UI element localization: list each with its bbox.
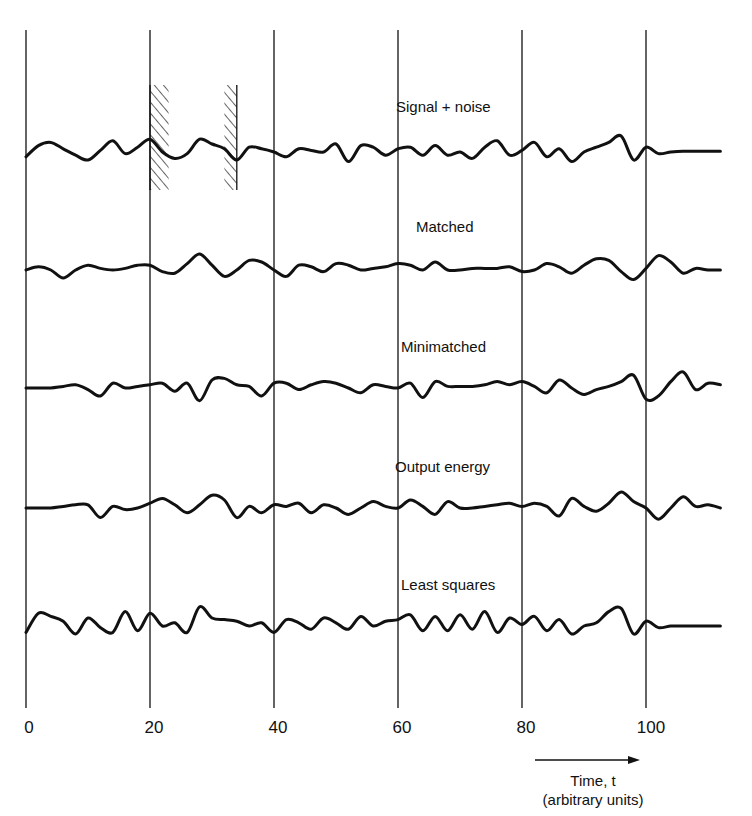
hatched-region-1 (150, 85, 169, 190)
vertical-gridlines (26, 30, 646, 708)
x-axis-units: (arbitrary units) (518, 790, 668, 809)
trace-label-least-squares: Least squares (401, 576, 495, 593)
x-axis-label: Time, t (518, 771, 668, 790)
x-tick-label-40: 40 (269, 718, 288, 738)
x-tick-label-80: 80 (517, 718, 536, 738)
trace-least-squares (26, 606, 720, 634)
x-tick-label-100: 100 (637, 718, 665, 738)
hatched-regions (150, 85, 237, 190)
trace-output-energy (26, 492, 720, 519)
trace-label-signal-noise: Signal + noise (396, 98, 491, 115)
x-axis-caption: Time, t (arbitrary units) (518, 771, 668, 809)
time-arrow (535, 756, 640, 764)
hatched-region-2 (224, 85, 236, 190)
trace-label-output-energy: Output energy (395, 458, 490, 475)
x-tick-label-20: 20 (145, 718, 164, 738)
x-tick-label-0: 0 (24, 718, 33, 738)
trace-label-matched: Matched (416, 218, 474, 235)
trace-matched (26, 254, 720, 280)
signal-traces (26, 135, 720, 634)
trace-label-minimatched: Minimatched (401, 338, 486, 355)
x-tick-label-60: 60 (393, 718, 412, 738)
trace-signal-noise (26, 135, 720, 161)
trace-minimatched (26, 372, 720, 401)
chart-canvas (0, 0, 752, 816)
